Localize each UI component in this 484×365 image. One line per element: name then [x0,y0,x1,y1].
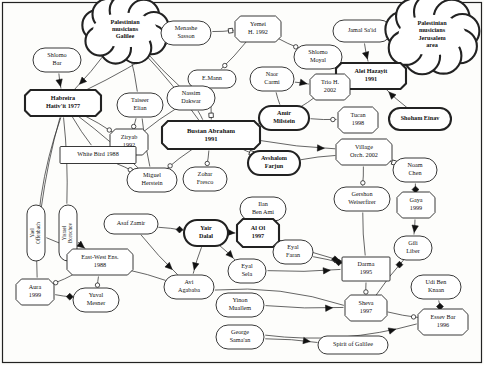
graph-node[interactable]: HabreiraHativ'it 1977 [25,90,101,116]
node-label: EyalFaran [286,244,300,258]
graph-node[interactable]: White Bird 1988 [60,147,136,164]
graph-node[interactable]: E.Mann [188,70,236,88]
graph-node[interactable]: Tucan1998 [338,107,378,133]
node-layer: PalestinianmusiciansGalileeShlomoBarHabr… [16,0,479,354]
graph-node[interactable]: NassimDakwar [167,86,215,110]
graph-node[interactable]: AviAgababa [164,275,214,299]
graph-node[interactable]: TaiseerElian [117,93,163,117]
graph-edge [95,276,99,287]
node-label: MiguelHerstein [142,172,163,186]
graph-edge [295,79,309,87]
graph-node[interactable]: Gaya1999 [397,192,435,218]
graph-node[interactable]: Essev Bar1996 [418,309,468,335]
edge-square-marker [209,113,214,118]
graph-node[interactable]: EyalFaran [273,240,313,264]
graph-node[interactable]: East-West Ens.1988 [67,249,133,275]
graph-edge [258,140,335,151]
graph-node[interactable]: EyalSela [228,259,266,283]
graph-edge [198,111,203,120]
graph-node[interactable]: YaelOffenbach [27,205,45,261]
graph-node[interactable]: NaorCarmi [250,67,294,91]
graph-node[interactable]: Al Ol1997 [237,219,279,247]
graph-node[interactable]: NoamChen [393,158,437,182]
graph-edge [221,42,246,69]
edge-circle-marker [131,124,135,128]
node-label: EyalSela [241,263,253,277]
graph-edge [56,73,64,88]
graph-edge [131,118,136,128]
graph-edge [141,235,178,275]
edge-arrowhead [388,326,396,334]
graph-edge [277,38,299,49]
graph-node[interactable]: YairDalal [184,220,228,246]
graph-node[interactable]: ShlomoMoyal [294,45,342,69]
node-label: NaorCarmi [264,71,280,85]
graph-node[interactable]: Spirit of Galilee [318,336,388,354]
graph-edge [55,293,73,300]
graph-edge [310,117,336,121]
edge-circle-marker [361,181,365,185]
graph-edge [301,155,336,159]
edge-circle-marker [107,128,111,132]
graph-node[interactable]: GeorgeSama'an [216,325,264,349]
graph-edge [267,267,340,274]
node-label: Ziryab1992 [121,134,138,148]
graph-node[interactable]: GiliLiber [394,236,432,260]
graph-node[interactable]: IlanBen Ami [240,197,286,221]
graph-edge [361,166,365,185]
edge-arrowhead [363,51,371,59]
graph-node[interactable]: VillageOrch. 2002 [336,139,392,165]
graph-node[interactable]: Trio H.2002 [310,74,350,100]
graph-node[interactable]: GershonWeiserfirer [334,187,390,211]
node-label: Aura1999 [29,284,42,298]
graph-edge [386,89,407,107]
graph-edge [300,97,315,107]
graph-node[interactable]: AvshalomFarjun [248,151,300,175]
graph-node[interactable]: Darma1995 [342,257,390,281]
node-label: Gaya1999 [409,197,422,211]
graph-node[interactable]: ShlomoBar [33,48,81,72]
edge-dot-marker [176,226,183,233]
graph-node[interactable]: Jamal Sa'id [333,20,391,42]
graph-node[interactable]: Bustan Abraham1991 [162,121,260,149]
node-label: NoamChen [407,162,422,176]
graph-node[interactable]: Asaf Zamir [104,214,158,234]
graph-edge [437,300,444,310]
graph-node[interactable]: Sheva1997 [345,295,387,321]
graph-edge [72,117,91,145]
graph-node[interactable]: YinonMuallem [216,293,264,317]
edge-arrowhead [56,79,64,87]
node-label: Jamal Sa'id [348,26,377,33]
graph-node[interactable]: Udi BenKnaan [411,275,461,299]
node-label: Tucan1998 [350,112,365,126]
node-label: TaiseerElian [131,97,149,111]
graph-node[interactable]: MiguelHerstein [127,168,177,192]
graph-edge [363,212,365,255]
edge-dot-marker [66,293,73,300]
graph-node[interactable]: PalestinianmusiciansGalilee [82,0,168,64]
graph-node[interactable]: AmirMilstein [259,106,309,130]
edge-arrowhead [411,225,418,233]
node-label: ZoharFresco [197,171,214,185]
network-graph: PalestinianmusiciansGalileeShlomoBarHabr… [0,0,484,365]
edge-square-marker [228,28,233,33]
graph-node[interactable]: YuvalMesner [73,288,119,312]
graph-node[interactable]: Aura1999 [16,279,54,305]
node-label: NassimDakwar [181,90,201,104]
graph-edge [313,257,343,266]
graph-node[interactable]: Shoham Einav [389,108,451,130]
graph-edge [191,247,201,273]
node-label: E.Mann [202,74,222,81]
node-label: YemeiH. 1992 [248,21,268,35]
graph-edge [117,164,133,172]
edge-circle-marker [411,315,415,319]
graph-node[interactable]: YemeiH. 1992 [235,16,281,42]
graph-node[interactable]: MenasheSasson [161,21,211,45]
graph-edge [41,117,60,207]
graph-node[interactable]: ZoharFresco [183,167,227,191]
node-label: GeorgeSama'an [230,329,251,343]
node-label: GershonWeiserfirer [348,191,376,205]
edge-circle-marker [95,283,99,287]
edge-circle-marker [205,161,209,165]
edge-arrowhead [191,262,199,270]
